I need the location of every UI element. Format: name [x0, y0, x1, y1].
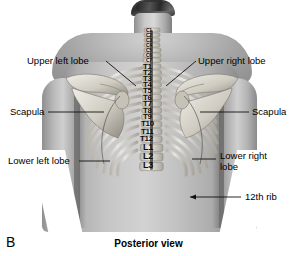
figure-caption: Posterior view — [0, 238, 297, 249]
callout-upper-right-lobe: Upper right lobe — [198, 55, 266, 66]
callout-scapula-left: Scapula — [10, 106, 44, 117]
callout-upper-left-lobe: Upper left lobe — [27, 55, 89, 66]
anatomy-figure: C1 C2 C3 C4 C5 C6 C7 T1 T2 T3 T4 T5 T6 T… — [0, 0, 297, 256]
callout-scapula-right: Scapula — [252, 106, 286, 117]
anatomical-illustration: C1 C2 C3 C4 C5 C6 C7 T1 T2 T3 T4 T5 T6 T… — [0, 0, 297, 232]
vertebra-label-l3: L3 — [143, 161, 153, 170]
callout-12th-rib: 12th rib — [245, 191, 277, 202]
callout-lower-left-lobe: Lower left lobe — [8, 155, 70, 166]
arrowhead-12th-rib — [190, 194, 196, 199]
callout-lower-right-lobe: Lower right lobe — [220, 150, 280, 172]
scapula-left-bone — [66, 74, 129, 138]
scapula-right-bone — [175, 74, 238, 138]
